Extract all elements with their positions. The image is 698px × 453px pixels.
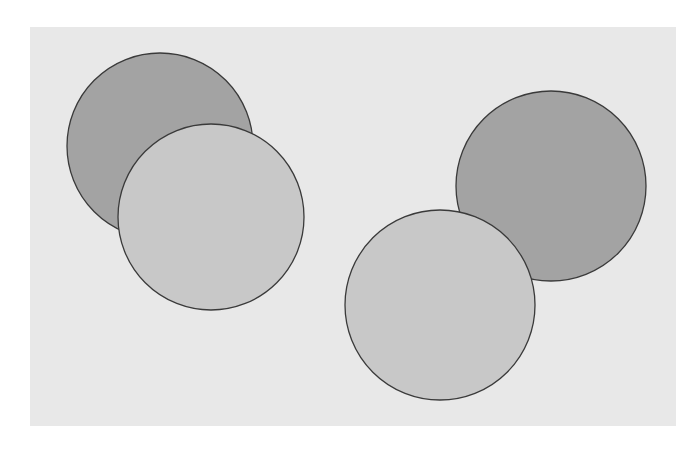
light-circle-left — [118, 124, 304, 310]
light-circle-right — [345, 210, 535, 400]
circles-diagram — [0, 0, 698, 453]
